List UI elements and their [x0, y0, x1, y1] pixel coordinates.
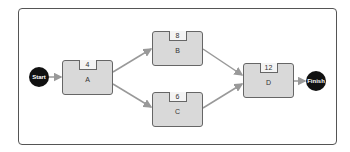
edge-c-d: [203, 84, 242, 108]
node-b[interactable]: 8 B: [152, 31, 203, 66]
node-c[interactable]: 6 C: [152, 92, 203, 127]
node-a[interactable]: 4 A: [62, 60, 113, 95]
finish-node[interactable]: Finish: [306, 71, 326, 91]
node-d-duration: 12: [260, 63, 278, 73]
node-c-label: C: [153, 108, 202, 115]
start-label: Start: [32, 74, 46, 80]
node-d-label: D: [244, 79, 293, 86]
node-d[interactable]: 12 D: [243, 63, 294, 98]
start-node[interactable]: Start: [29, 67, 49, 87]
finish-label: Finish: [307, 78, 325, 84]
node-a-duration: 4: [79, 60, 97, 70]
node-b-label: B: [153, 47, 202, 54]
node-a-label: A: [63, 76, 112, 83]
node-b-duration: 8: [169, 31, 187, 41]
edges-layer: [0, 0, 350, 152]
edge-b-d: [203, 49, 242, 75]
edge-a-c: [113, 84, 151, 107]
node-c-duration: 6: [169, 92, 187, 102]
edge-a-b: [113, 49, 151, 72]
